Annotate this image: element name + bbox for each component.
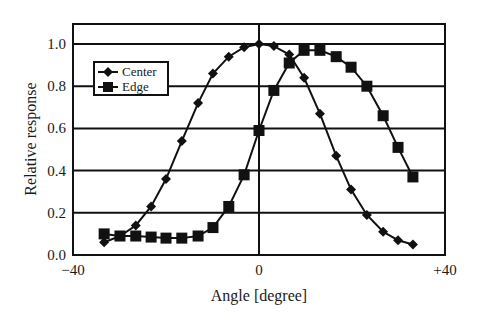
square-marker-icon [193, 231, 204, 242]
x-axis-label: Angle [degree] [211, 287, 307, 305]
y-axis-label: Relative response [22, 82, 40, 195]
square-marker-icon [99, 228, 110, 239]
diamond-marker-icon [393, 235, 403, 245]
grid-lines [73, 24, 445, 255]
x-tick-label: +40 [433, 262, 456, 278]
square-marker-icon [114, 231, 125, 242]
line-chart: 0.00.20.40.60.81.0 −400+40 Angle [degree… [0, 0, 483, 318]
diamond-marker-icon [254, 39, 264, 49]
square-marker-icon [254, 125, 265, 136]
diamond-marker-icon [331, 151, 341, 161]
diamond-marker-icon [315, 109, 325, 119]
square-marker-icon [223, 201, 234, 212]
diamond-marker-icon [177, 136, 187, 146]
square-marker-icon [239, 169, 250, 180]
square-marker-icon [207, 222, 218, 233]
y-axis-ticks: 0.00.20.40.60.81.0 [47, 36, 66, 263]
diamond-marker-icon [408, 239, 418, 249]
square-marker-icon [130, 231, 141, 242]
square-marker-icon [346, 62, 357, 73]
square-marker-icon [407, 171, 418, 182]
y-tick-label: 0.6 [47, 120, 66, 136]
y-tick-label: 0.0 [47, 247, 66, 263]
diamond-marker-icon [193, 98, 203, 108]
square-marker-icon [284, 57, 295, 68]
square-marker-icon [268, 85, 279, 96]
legend-label-center: Center [122, 64, 157, 79]
square-marker-icon [378, 110, 389, 121]
square-marker-icon [176, 233, 187, 244]
square-marker-icon [161, 233, 172, 244]
diamond-marker-icon [269, 41, 279, 51]
y-tick-label: 0.4 [47, 163, 66, 179]
x-axis-ticks: −400+40 [61, 262, 456, 278]
legend-label-edge: Edge [122, 79, 149, 94]
square-marker-icon [314, 45, 325, 56]
x-tick-label: 0 [255, 262, 263, 278]
x-tick-label: −40 [61, 262, 84, 278]
y-tick-label: 0.2 [47, 205, 66, 221]
square-marker-icon [361, 81, 372, 92]
square-marker-icon [103, 82, 113, 92]
diamond-marker-icon [299, 73, 309, 83]
y-tick-label: 1.0 [47, 36, 66, 52]
y-tick-label: 0.8 [47, 78, 66, 94]
square-marker-icon [331, 51, 342, 62]
square-marker-icon [146, 232, 157, 243]
legend: Center Edge [94, 62, 168, 95]
diamond-marker-icon [161, 174, 171, 184]
square-marker-icon [299, 45, 310, 56]
diamond-marker-icon [346, 185, 356, 195]
square-marker-icon [393, 142, 404, 153]
